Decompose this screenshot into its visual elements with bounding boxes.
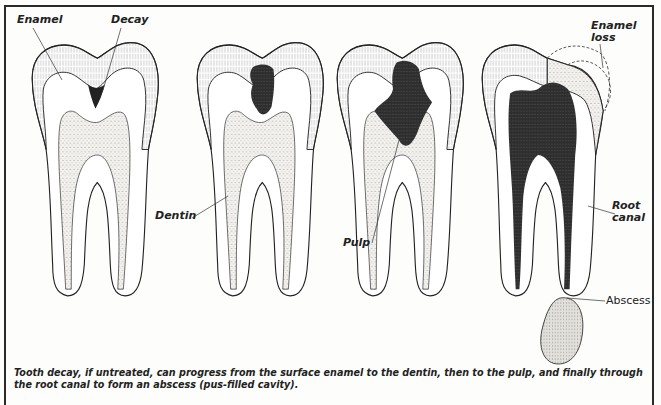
tooth-stage-4 xyxy=(482,45,610,364)
label-dentin: Dentin xyxy=(155,210,196,222)
label-pulp: Pulp xyxy=(343,237,370,249)
label-root-canal: Root canal xyxy=(612,200,645,224)
label-abscess: Abscess xyxy=(606,295,651,307)
label-enamel: Enamel xyxy=(17,14,62,26)
label-root-canal-line2: canal xyxy=(612,211,645,224)
label-enamel-loss: Enamel loss xyxy=(591,20,636,44)
tooth-stage-1 xyxy=(32,43,158,296)
label-enamel-loss-line2: loss xyxy=(591,31,615,44)
label-decay: Decay xyxy=(111,14,148,26)
tooth-stage-2 xyxy=(197,43,323,296)
figure-caption: Tooth decay, if untreated, can progress … xyxy=(14,367,644,391)
tooth-stage-3 xyxy=(337,43,463,296)
